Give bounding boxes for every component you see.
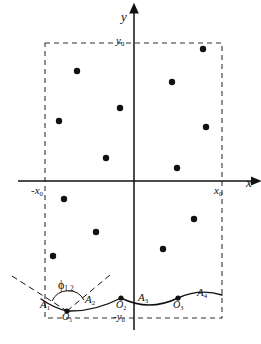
scatter-point-4 xyxy=(103,155,109,161)
scatter-point-group xyxy=(50,46,209,259)
angle-phi-sub: 1,2 xyxy=(64,284,73,293)
cusp-o1-sub: 1 xyxy=(69,316,72,323)
scatter-point-3 xyxy=(56,118,62,124)
scatter-point-9 xyxy=(61,196,67,202)
cusp-o3-sub: 3 xyxy=(180,304,183,311)
cusp-o2-sub: 2 xyxy=(123,304,126,311)
arc-label-a2: A2 xyxy=(85,294,95,307)
scatter-point-13 xyxy=(160,246,166,252)
tick-neg-y0-text: -y xyxy=(113,310,122,322)
tick-label-y0: y0 xyxy=(116,35,124,48)
scatter-point-1 xyxy=(74,68,80,74)
scatter-point-8 xyxy=(174,165,180,171)
tick-neg-x0-sub: 0 xyxy=(40,190,43,197)
scalloped-boundary-curve xyxy=(41,292,222,311)
scatter-point-10 xyxy=(93,229,99,235)
arc-a4-sub: 4 xyxy=(204,292,207,299)
tick-y0-sub: 0 xyxy=(121,40,124,47)
tick-label-neg-x0: -x0 xyxy=(31,185,43,198)
cusp-label-o1: O1 xyxy=(62,312,72,323)
arc-a3-text: A xyxy=(138,291,145,303)
scatter-point-11 xyxy=(50,253,56,259)
tick-neg-x0-text: -x xyxy=(31,184,40,196)
arc-label-a1: A1 xyxy=(40,299,50,312)
arc-label-a3: A3 xyxy=(138,292,148,305)
tick-x0-sub: 0 xyxy=(219,190,222,197)
scatter-point-5 xyxy=(200,46,206,52)
x-axis-label: x xyxy=(246,176,252,189)
arc-a4-text: A xyxy=(197,286,204,298)
scatter-point-2 xyxy=(117,105,123,111)
cusp-label-o3: O3 xyxy=(173,300,183,311)
scatter-point-12 xyxy=(191,216,197,222)
figure-canvas: x y -x0 x0 y0 -y0 A1 A2 A3 A4 O1 O2 O3 ϕ… xyxy=(0,0,261,344)
arc-label-a4: A4 xyxy=(197,287,207,300)
tick-label-x0: x0 xyxy=(214,185,222,198)
y-axis-label: y xyxy=(121,10,127,23)
arc-a3-sub: 3 xyxy=(145,297,148,304)
diagram-vector-layer xyxy=(0,0,261,344)
tick-neg-y0-sub: 0 xyxy=(122,316,125,323)
arc-a1-sub: 1 xyxy=(47,304,50,311)
cusp-label-o2: O2 xyxy=(116,300,126,311)
scatter-point-6 xyxy=(169,79,175,85)
arc-a2-text: A xyxy=(85,293,92,305)
arc-a1-text: A xyxy=(40,298,47,310)
arc-a2-sub: 2 xyxy=(92,299,95,306)
tick-label-neg-y0: -y0 xyxy=(113,311,125,324)
angle-label-phi: ϕ1,2 xyxy=(58,279,74,292)
scatter-point-7 xyxy=(203,124,209,130)
